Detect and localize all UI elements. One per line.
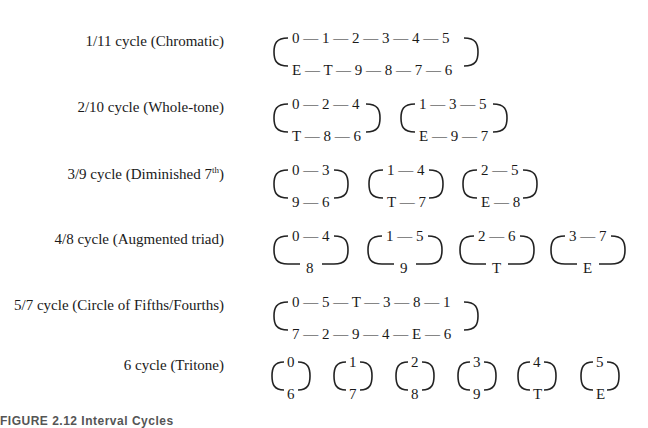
cycle-top-row: 4 bbox=[533, 354, 541, 370]
cycle-top-row: 2 bbox=[411, 354, 419, 370]
cycle-group: 1 — 5 9 bbox=[360, 228, 450, 272]
cycle-top-row: 0 — 4 bbox=[292, 228, 330, 244]
row-label-augmented: 4/8 cycle (Augmented triad) bbox=[54, 231, 224, 248]
cycle-group: 5 E bbox=[575, 354, 631, 398]
cycle-group: 0 — 5 — T — 3 — 8 — 1 7 — 2 — 9 — 4 — E … bbox=[266, 294, 486, 338]
cycle-bottom-row: 8 bbox=[411, 386, 419, 402]
label-text-end: ) bbox=[219, 166, 224, 182]
cycle-bottom-row: 7 — 2 — 9 — 4 — E — 6 bbox=[292, 326, 451, 342]
row-label-diminished: 3/9 cycle (Diminished 7th) bbox=[67, 165, 224, 183]
cycle-group: 1 7 bbox=[328, 354, 384, 398]
row-label-chromatic: 1/11 cycle (Chromatic) bbox=[85, 33, 224, 50]
cycle-top-row: 0 bbox=[287, 354, 295, 370]
cycle-top-row: 2 — 6 bbox=[478, 228, 516, 244]
cycle-bottom-row: 9 bbox=[473, 386, 481, 402]
cycle-top-row: 3 — 7 bbox=[569, 228, 607, 244]
cycle-bottom-row: E — 9 — 7 bbox=[419, 128, 488, 144]
cycle-group: 3 9 bbox=[452, 354, 508, 398]
cycle-group: 0 6 bbox=[266, 354, 322, 398]
cycle-top-row: 1 bbox=[349, 354, 357, 370]
cycle-bottom-row: T — 8 — 6 bbox=[292, 128, 361, 144]
cycle-bottom-row: 9 bbox=[400, 260, 408, 276]
cycle-group: 3 — 7 E bbox=[543, 228, 633, 272]
cycle-bottom-row: E bbox=[583, 260, 592, 276]
cycle-group: 0 — 3 9 — 6 bbox=[266, 162, 356, 206]
cycle-group: 4 T bbox=[512, 354, 568, 398]
cycle-bottom-row: 8 bbox=[306, 260, 314, 276]
cycle-top-row: 1 — 5 bbox=[386, 228, 424, 244]
cycle-top-row: 5 bbox=[596, 354, 604, 370]
cycle-top-row: 2 — 5 bbox=[481, 162, 519, 178]
cycle-group: 0 — 1 — 2 — 3 — 4 — 5 E — T — 9 — 8 — 7 … bbox=[266, 30, 486, 74]
cycle-bottom-row: T bbox=[492, 260, 501, 276]
row-label-fifths: 5/7 cycle (Circle of Fifths/Fourths) bbox=[14, 297, 224, 314]
cycle-group: 1 — 4 T — 7 bbox=[361, 162, 451, 206]
cycle-bottom-row: 9 — 6 bbox=[292, 194, 330, 210]
cycle-group: 0 — 2 — 4 T — 8 — 6 bbox=[266, 96, 386, 140]
cycle-bottom-row: T — 7 bbox=[387, 194, 426, 210]
cycle-top-row: 0 — 2 — 4 bbox=[292, 96, 360, 112]
cycle-top-row: 1 — 3 — 5 bbox=[419, 96, 487, 112]
cycle-bottom-row: E bbox=[596, 386, 605, 402]
cycle-bottom-row: E — 8 bbox=[481, 194, 520, 210]
cycle-bottom-row: E — T — 9 — 8 — 7 — 6 bbox=[292, 62, 452, 78]
row-label-whole-tone: 2/10 cycle (Whole-tone) bbox=[77, 99, 224, 116]
row-label-tritone: 6 cycle (Tritone) bbox=[124, 357, 224, 374]
cycle-top-row: 0 — 5 — T — 3 — 8 — 1 bbox=[292, 294, 451, 310]
cycle-bottom-row: 7 bbox=[349, 386, 357, 402]
cycle-group: 2 — 6 T bbox=[452, 228, 542, 272]
cycle-group: 0 — 4 8 bbox=[266, 228, 356, 272]
label-superscript: th bbox=[212, 165, 219, 175]
cycle-bottom-row: 6 bbox=[287, 386, 295, 402]
cycle-group: 2 — 5 E — 8 bbox=[455, 162, 545, 206]
cycle-group: 2 8 bbox=[390, 354, 446, 398]
label-text: 3/9 cycle (Diminished 7 bbox=[67, 166, 212, 182]
cycle-top-row: 0 — 3 bbox=[292, 162, 330, 178]
cycle-top-row: 0 — 1 — 2 — 3 — 4 — 5 bbox=[292, 30, 450, 46]
figure-caption: FIGURE 2.12 Interval Cycles bbox=[0, 414, 174, 428]
cycle-top-row: 1 — 4 bbox=[387, 162, 425, 178]
cycle-top-row: 3 bbox=[473, 354, 481, 370]
cycle-bottom-row: T bbox=[533, 386, 542, 402]
cycle-group: 1 — 3 — 5 E — 9 — 7 bbox=[393, 96, 513, 140]
